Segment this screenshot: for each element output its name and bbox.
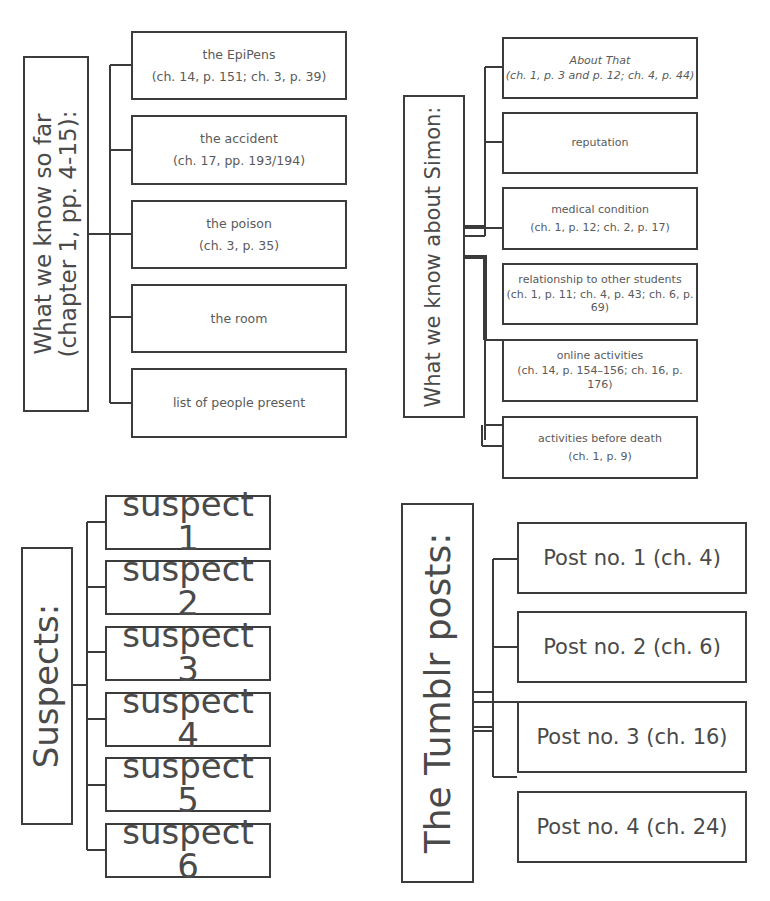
node-accident: the accident (ch. 17, pp. 193/194) (131, 115, 347, 185)
node-title: list of people present (173, 395, 305, 411)
suspect-4: suspect 4 (105, 692, 271, 747)
suspect-name: suspect 6 (107, 815, 269, 883)
known-so-far-label-box: What we know so far (chapter 1, pp. 4-15… (23, 56, 89, 412)
node-medical-condition: medical condition (ch. 1, p. 12; ch. 2, … (502, 187, 698, 250)
about-simon-label: What we know about Simon: (422, 106, 445, 407)
post-1: Post no. 1 (ch. 4) (517, 522, 747, 594)
suspects-label-box: Suspects: (21, 547, 73, 825)
known-so-far-label-line2: (chapter 1, pp. 4-15): (56, 111, 81, 358)
node-ref: (ch. 1, p. 12; ch. 2, p. 17) (530, 221, 670, 235)
suspect-name: suspect 2 (107, 552, 269, 620)
node-title: activities before death (538, 432, 662, 446)
suspect-name: suspect 5 (107, 749, 269, 817)
node-title: the accident (200, 131, 278, 147)
tumblr-label: The Tumblr posts: (418, 533, 458, 854)
node-poison: the poison (ch. 3, p. 35) (131, 200, 347, 269)
known-so-far-label: What we know so far (chapter 1, pp. 4-15… (31, 111, 82, 358)
node-activities-before-death: activities before death (ch. 1, p. 9) (502, 416, 698, 479)
post-label: Post no. 4 (ch. 24) (536, 814, 727, 840)
post-label: Post no. 3 (ch. 16) (536, 724, 727, 750)
suspect-name: suspect 4 (107, 684, 269, 752)
node-ref: (ch. 14, p. 154–156; ch. 16, p. 176) (504, 364, 696, 392)
known-so-far-label-line1: What we know so far (31, 111, 56, 358)
node-ref: (ch. 17, pp. 193/194) (173, 153, 305, 169)
suspect-5: suspect 5 (105, 757, 271, 812)
suspect-1: suspect 1 (105, 495, 271, 550)
suspect-name: suspect 1 (107, 487, 269, 555)
node-ref: (ch. 14, p. 151; ch. 3, p. 39) (152, 69, 327, 85)
post-label: Post no. 1 (ch. 4) (543, 545, 721, 571)
node-ref: (ch. 1, p. 9) (568, 450, 632, 464)
node-ref: (ch. 3, p. 35) (199, 238, 279, 254)
post-2: Post no. 2 (ch. 6) (517, 611, 747, 683)
node-ref: (ch. 1, p. 3 and p. 12; ch. 4, p. 44) (506, 69, 694, 83)
node-room: the room (131, 284, 347, 353)
about-simon-label-box: What we know about Simon: (403, 95, 465, 418)
suspect-2: suspect 2 (105, 560, 271, 615)
suspect-name: suspect 3 (107, 618, 269, 686)
node-title: the poison (206, 216, 272, 232)
node-title: the EpiPens (202, 47, 275, 63)
node-title: medical condition (551, 203, 649, 217)
node-title: About That (570, 54, 631, 68)
node-people-present: list of people present (131, 368, 347, 438)
node-relationship-students: relationship to other students (ch. 1, p… (502, 263, 698, 325)
post-4: Post no. 4 (ch. 24) (517, 791, 747, 863)
tumblr-label-box: The Tumblr posts: (401, 503, 474, 883)
node-reputation: reputation (502, 112, 698, 174)
post-3: Post no. 3 (ch. 16) (517, 701, 747, 773)
node-title: the room (211, 311, 268, 327)
node-epipens: the EpiPens (ch. 14, p. 151; ch. 3, p. 3… (131, 31, 347, 100)
suspects-label: Suspects: (28, 604, 65, 769)
node-title: online activities (557, 349, 644, 363)
suspect-3: suspect 3 (105, 626, 271, 681)
node-title: relationship to other students (518, 273, 681, 287)
post-label: Post no. 2 (ch. 6) (543, 634, 721, 660)
node-about-that: About That (ch. 1, p. 3 and p. 12; ch. 4… (502, 37, 698, 99)
node-ref: (ch. 1, p. 11; ch. 4, p. 43; ch. 6, p. 6… (504, 288, 696, 316)
node-title: reputation (571, 136, 628, 150)
node-online-activities: online activities (ch. 14, p. 154–156; c… (502, 339, 698, 402)
suspect-6: suspect 6 (105, 823, 271, 878)
